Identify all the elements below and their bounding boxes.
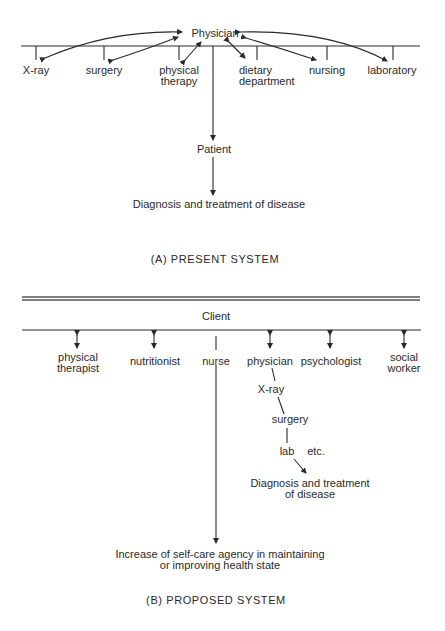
department-dietary: dietary department <box>239 65 295 87</box>
chain-xray: X-ray <box>258 384 284 395</box>
chain-surgery: surgery <box>272 414 309 425</box>
provider-physician: physician <box>247 356 293 367</box>
physician-outcome: Diagnosis and treatment of disease <box>250 478 369 500</box>
proposed-hub-client: Client <box>202 311 230 322</box>
provider-psychologist: psychologist <box>301 356 362 367</box>
department-laboratory: laboratory <box>368 65 417 76</box>
nurse-outcome: Increase of self-care agency in maintain… <box>115 549 324 571</box>
provider-nutritionist: nutritionist <box>130 356 180 367</box>
provider-social-worker: social worker <box>387 352 420 374</box>
department-surgery: surgery <box>86 65 123 76</box>
present-hub-physician: Physician <box>191 28 238 39</box>
health-care-systems-diagram: Physician X-ray surgery physical therapy… <box>0 0 445 631</box>
caption-proposed-system: (B) PROPOSED SYSTEM <box>146 595 286 606</box>
provider-nurse: nurse <box>202 356 230 367</box>
department-physical-therapy: physical therapy <box>159 65 199 87</box>
patient-label: Patient <box>197 144 231 155</box>
present-outcome: Diagnosis and treatment of disease <box>133 199 305 210</box>
caption-present-system: (A) PRESENT SYSTEM <box>151 254 280 265</box>
chain-etc: etc. <box>307 446 325 457</box>
provider-physical-therapist: physical therapist <box>57 352 99 374</box>
department-nursing: nursing <box>309 65 345 76</box>
chain-lab: lab <box>280 446 295 457</box>
department-xray: X-ray <box>23 65 49 76</box>
